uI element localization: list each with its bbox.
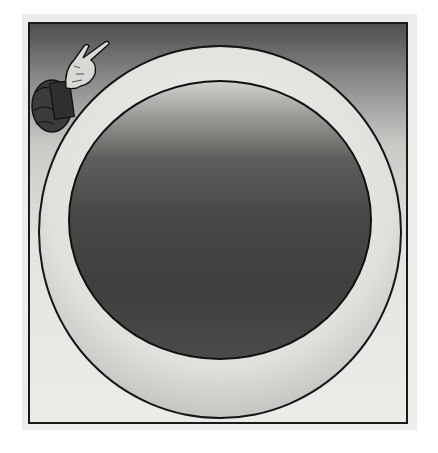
hand-of-god-icon [30, 26, 120, 136]
blessing-hand-icon [66, 41, 109, 88]
